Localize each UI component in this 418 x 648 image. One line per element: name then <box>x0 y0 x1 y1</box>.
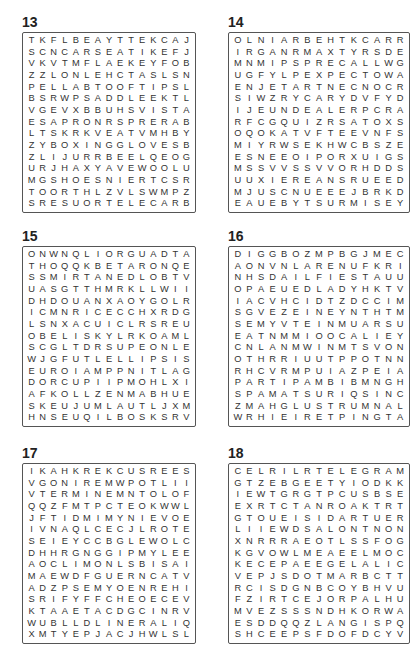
letter-cell[interactable]: R <box>371 606 383 618</box>
letter-cell[interactable]: X <box>383 117 395 129</box>
letter-cell[interactable]: G <box>148 296 159 308</box>
letter-cell[interactable]: P <box>244 389 256 401</box>
letter-cell[interactable]: F <box>360 261 372 273</box>
letter-cell[interactable]: R <box>232 366 244 378</box>
letter-cell[interactable]: I <box>325 366 337 378</box>
letter-cell[interactable]: M <box>126 377 137 389</box>
letter-cell[interactable]: O <box>336 501 348 513</box>
letter-cell[interactable]: N <box>115 618 126 630</box>
letter-cell[interactable]: R <box>48 366 59 378</box>
letter-cell[interactable]: B <box>360 571 372 583</box>
letter-cell[interactable]: Q <box>70 524 81 536</box>
letter-cell[interactable]: L <box>148 401 159 413</box>
letter-cell[interactable]: S <box>302 629 314 641</box>
letter-cell[interactable]: B <box>48 140 59 152</box>
letter-cell[interactable]: F <box>126 82 137 94</box>
letter-cell[interactable]: A <box>137 389 148 401</box>
letter-cell[interactable]: I <box>267 35 279 47</box>
letter-cell[interactable]: D <box>170 307 181 319</box>
letter-cell[interactable]: C <box>92 524 103 536</box>
letter-cell[interactable]: N <box>92 296 103 308</box>
letter-cell[interactable]: F <box>59 594 70 606</box>
letter-cell[interactable]: I <box>348 478 360 490</box>
letter-cell[interactable]: A <box>360 559 372 571</box>
letter-cell[interactable]: P <box>232 377 244 389</box>
letter-cell[interactable]: T <box>336 47 348 59</box>
letter-cell[interactable]: T <box>170 105 181 117</box>
letter-cell[interactable]: R <box>360 47 372 59</box>
letter-cell[interactable]: G <box>244 307 256 319</box>
letter-cell[interactable]: R <box>325 117 337 129</box>
letter-cell[interactable]: X <box>232 536 244 548</box>
letter-cell[interactable]: P <box>302 58 314 70</box>
letter-cell[interactable]: R <box>267 594 279 606</box>
letter-cell[interactable]: U <box>92 319 103 331</box>
letter-cell[interactable]: V <box>232 571 244 583</box>
letter-cell[interactable]: S <box>159 412 170 424</box>
letter-cell[interactable]: D <box>103 93 114 105</box>
letter-cell[interactable]: A <box>255 284 267 296</box>
letter-cell[interactable]: L <box>81 524 92 536</box>
letter-cell[interactable]: Z <box>37 70 48 82</box>
letter-cell[interactable]: B <box>92 261 103 273</box>
letter-cell[interactable]: G <box>48 342 59 354</box>
letter-cell[interactable]: N <box>48 47 59 59</box>
letter-cell[interactable]: D <box>383 163 395 175</box>
letter-cell[interactable]: E <box>232 82 244 94</box>
letter-cell[interactable]: N <box>278 261 290 273</box>
letter-cell[interactable]: I <box>137 366 148 378</box>
letter-cell[interactable]: N <box>302 583 314 595</box>
letter-cell[interactable]: U <box>325 198 337 210</box>
letter-cell[interactable]: R <box>267 536 279 548</box>
letter-cell[interactable]: E <box>232 152 244 164</box>
letter-cell[interactable]: K <box>383 187 395 199</box>
letter-cell[interactable]: O <box>59 389 70 401</box>
letter-cell[interactable]: R <box>59 489 70 501</box>
letter-cell[interactable]: O <box>290 152 302 164</box>
letter-cell[interactable]: N <box>325 175 337 187</box>
letter-cell[interactable]: R <box>325 93 337 105</box>
letter-cell[interactable]: H <box>159 128 170 140</box>
letter-cell[interactable]: C <box>81 536 92 548</box>
letter-cell[interactable]: O <box>148 489 159 501</box>
letter-cell[interactable]: R <box>159 307 170 319</box>
letter-cell[interactable]: K <box>26 606 37 618</box>
letter-cell[interactable]: T <box>360 307 372 319</box>
letter-cell[interactable]: V <box>148 140 159 152</box>
letter-cell[interactable]: N <box>181 70 192 82</box>
letter-cell[interactable]: B <box>313 583 325 595</box>
letter-cell[interactable]: U <box>37 366 48 378</box>
letter-cell[interactable]: U <box>278 284 290 296</box>
letter-cell[interactable]: H <box>115 105 126 117</box>
letter-cell[interactable]: M <box>290 342 302 354</box>
letter-cell[interactable]: P <box>103 366 114 378</box>
letter-cell[interactable]: M <box>103 478 114 490</box>
letter-cell[interactable]: E <box>302 536 314 548</box>
letter-cell[interactable]: R <box>59 187 70 199</box>
letter-cell[interactable]: F <box>59 354 70 366</box>
letter-cell[interactable]: L <box>126 536 137 548</box>
letter-cell[interactable]: A <box>394 366 406 378</box>
letter-cell[interactable]: Y <box>394 198 406 210</box>
letter-cell[interactable]: O <box>325 594 337 606</box>
letter-cell[interactable]: U <box>348 261 360 273</box>
letter-cell[interactable]: F <box>37 389 48 401</box>
letter-cell[interactable]: F <box>313 272 325 284</box>
letter-cell[interactable]: N <box>81 548 92 560</box>
letter-cell[interactable]: S <box>170 70 181 82</box>
letter-cell[interactable]: V <box>267 366 279 378</box>
letter-cell[interactable]: B <box>137 559 148 571</box>
letter-cell[interactable]: J <box>348 187 360 199</box>
letter-cell[interactable]: M <box>148 128 159 140</box>
letter-cell[interactable]: Z <box>244 594 256 606</box>
letter-cell[interactable]: Z <box>48 501 59 513</box>
letter-cell[interactable]: A <box>290 82 302 94</box>
letter-cell[interactable]: O <box>103 82 114 94</box>
letter-cell[interactable]: I <box>290 513 302 525</box>
letter-cell[interactable]: E <box>170 319 181 331</box>
letter-cell[interactable]: T <box>26 261 37 273</box>
letter-cell[interactable]: E <box>302 70 314 82</box>
letter-cell[interactable]: M <box>159 187 170 199</box>
letter-cell[interactable]: C <box>278 187 290 199</box>
letter-cell[interactable]: E <box>103 128 114 140</box>
